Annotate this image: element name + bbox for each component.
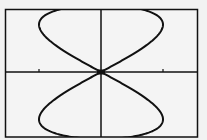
graph-screen [0, 0, 207, 140]
origin-marker [97, 70, 105, 75]
